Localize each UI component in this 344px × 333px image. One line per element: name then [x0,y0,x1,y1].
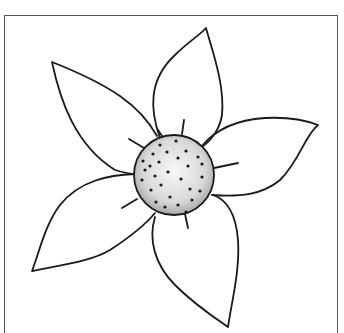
petal-right [202,118,318,196]
petal-top [153,28,222,146]
flower-center [134,135,214,215]
flower-drawing [0,0,344,333]
